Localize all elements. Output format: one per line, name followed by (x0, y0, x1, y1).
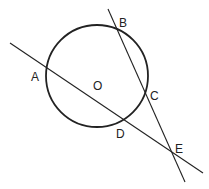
point-label-e: E (175, 142, 183, 156)
geometry-diagram: A B C D E O (0, 0, 209, 189)
secant-line-bce (108, 9, 185, 182)
point-label-b: B (119, 16, 127, 30)
point-label-c: C (150, 89, 159, 103)
center-label-o: O (93, 79, 102, 93)
point-label-a: A (31, 70, 39, 84)
circle-o (46, 25, 148, 127)
point-label-d: D (116, 127, 125, 141)
